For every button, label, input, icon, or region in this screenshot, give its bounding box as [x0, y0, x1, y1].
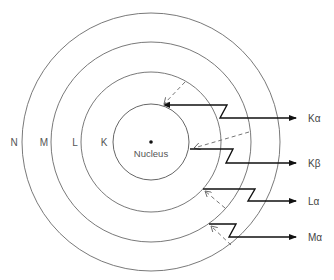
electron-jump-dashed-arrow [194, 132, 249, 148]
transition-k-beta: Kβ [190, 132, 321, 169]
electron-jump-dashed-arrow [211, 226, 231, 245]
emission-zigzag-arrow [203, 189, 296, 201]
transition-l-alpha: Lα [203, 189, 320, 208]
atom-diagram: Nucleus N M L K Kα Kβ Lα Mα [0, 0, 334, 280]
transition-m-alpha: Mα [209, 224, 322, 245]
emission-label-k-alpha: Kα [308, 113, 321, 124]
emission-label-m-alpha: Mα [308, 232, 322, 243]
electron-jump-dashed-arrow [205, 191, 225, 208]
nucleus-dot [149, 140, 153, 144]
shell-label-k: K [101, 137, 108, 148]
nucleus-label: Nucleus [134, 148, 169, 159]
shell-label-m: M [40, 137, 48, 148]
transition-k-alpha: Kα [163, 82, 321, 124]
shell-label-l: L [72, 137, 78, 148]
shell-label-n: N [10, 137, 17, 148]
emission-label-l-alpha: Lα [308, 196, 320, 207]
emission-zigzag-arrow [209, 224, 296, 237]
electron-jump-dashed-arrow [164, 82, 185, 104]
emission-label-k-beta: Kβ [308, 158, 321, 169]
